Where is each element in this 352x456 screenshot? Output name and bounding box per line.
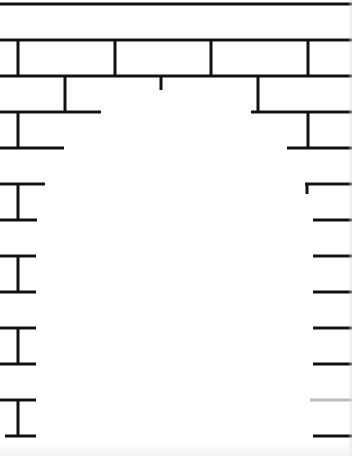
- brick-wall-drawing: [0, 0, 352, 456]
- horizontal-mortar-lines: [0, 4, 352, 436]
- page-edge-shadow: [348, 0, 352, 456]
- vertical-mortar-lines: [18, 40, 308, 436]
- page-bottom-shadow: [0, 442, 352, 456]
